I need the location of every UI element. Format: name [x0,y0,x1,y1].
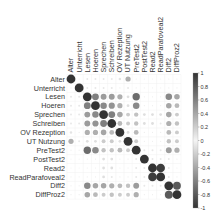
correlation-cell [175,130,179,134]
correlation-cell [152,149,154,151]
colorbar-tick-label: 0.4 [201,111,209,117]
correlation-cell [160,78,161,79]
correlation-cell [127,104,130,107]
correlation-cell [102,176,105,179]
correlation-cell [127,131,130,134]
correlation-cell [117,103,122,108]
correlation-cell [125,76,130,81]
correlation-cell [159,113,162,116]
colorbar-tick-label: 0 [201,138,204,144]
correlation-cell [79,78,80,79]
correlation-cell [160,123,162,125]
correlation-cell [166,94,173,101]
colorbar-tick-label: -0.8 [201,192,210,198]
row-label: Diff2 [50,181,65,190]
row-labels: AlterUnterrichtLesenHoerenSprechenSchrei… [9,75,65,200]
correlation-cell [127,95,130,98]
correlation-cell [152,105,153,106]
colorbar-tick-label: 1 [201,70,204,76]
correlation-cell [168,167,170,169]
correlation-plot-canvas: AlterUnterrichtLesenHoerenSprechenSchrei… [0,0,220,216]
correlation-cell [160,141,161,142]
correlation-cell [166,103,172,109]
correlation-cell [84,147,91,154]
correlation-cell [168,158,170,160]
correlation-cell [85,130,90,135]
column-label: DiffProz2 [172,43,181,72]
correlation-cell [134,130,139,135]
correlation-cell [160,149,162,151]
correlation-cell [102,158,105,161]
correlation-cell [84,102,91,109]
correlation-cell [152,185,154,187]
correlation-cell [86,87,88,89]
correlation-cell [85,192,91,198]
correlation-cell [79,150,80,151]
correlation-cell [75,84,84,93]
correlation-cell [70,185,71,186]
correlation-cell [152,96,153,97]
correlation-cell [152,132,153,133]
correlation-cell [100,120,107,127]
colorbar-tick-label: 0.2 [201,124,209,130]
correlation-cell [135,176,137,178]
row-label: OV Rezeption [20,128,65,137]
correlation-cell [117,148,122,153]
correlation-cell [86,140,89,143]
correlation-cell [110,193,114,197]
colorbar-tick-label: -0.6 [201,178,210,184]
correlation-cell [68,139,73,144]
row-label: DiffProz2 [35,190,64,199]
plot-grid [67,75,181,200]
correlation-cell [160,105,161,106]
correlation-cell [176,78,177,79]
correlation-cell [126,113,130,117]
correlation-cell [166,121,171,126]
column-labels: AlterUnterrichtLesenHoerenSprechenSchrei… [66,17,181,73]
correlation-cell [78,114,80,116]
correlation-cell [174,94,180,100]
row-label: Alter [50,75,65,84]
correlation-cell [92,147,99,154]
correlation-cell [87,167,88,168]
correlation-cell [156,164,165,173]
correlation-cell [135,158,137,160]
correlation-cell [175,121,179,125]
correlation-cell [176,158,177,159]
correlation-cell [124,137,133,146]
correlation-cell [79,176,80,177]
correlation-cell [160,185,162,187]
correlation-cell [168,176,170,178]
correlation-cell [160,87,161,88]
correlation-cell [78,140,80,142]
correlation-cell [174,148,179,153]
correlation-cell [165,191,173,199]
correlation-cell [144,87,145,88]
row-label: Sprechen [34,110,65,119]
correlation-cell [143,149,145,151]
correlation-cell [175,103,180,108]
correlation-cell [99,110,108,119]
correlation-cell [107,119,116,128]
correlation-cell [126,184,130,188]
correlation-cell [143,167,145,169]
correlation-cell [84,183,91,190]
correlation-cell [117,121,122,126]
correlation-cell [166,112,172,118]
correlation-cell [166,130,171,135]
correlation-cell [117,94,122,99]
correlation-cell [79,132,80,133]
correlation-cell [70,87,71,88]
correlation-cell [156,173,165,182]
correlation-cell [93,130,98,135]
correlation-cell [78,105,80,107]
correlation-cell [110,167,113,170]
correlation-cell [102,193,106,197]
correlation-cell [148,164,157,173]
correlation-cell [109,103,115,109]
colorbar-tick-label: 0.8 [201,84,209,90]
correlation-cell [144,194,145,195]
correlation-plot: AlterUnterrichtLesenHoerenSprechenSchrei… [0,0,220,216]
correlation-cell [127,176,128,177]
correlation-cell [94,140,97,143]
